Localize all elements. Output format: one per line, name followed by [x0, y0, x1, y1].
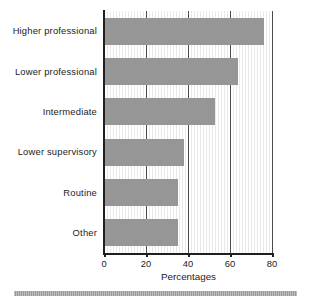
y-axis-line — [103, 10, 105, 255]
chart-plot-area: Higher professional Lower professional I… — [0, 0, 311, 268]
bar-row — [104, 11, 272, 51]
bar-row — [104, 92, 272, 132]
bar-other — [104, 219, 178, 246]
category-label-higher-professional: Higher professional — [0, 26, 97, 36]
bar-row — [104, 213, 272, 253]
footer-rule — [14, 291, 297, 296]
x-tick-0 — [104, 253, 106, 257]
bar-lower-professional — [104, 58, 238, 85]
category-label-other: Other — [0, 228, 97, 238]
x-axis-title: Percentages — [104, 271, 273, 282]
category-axis-labels: Higher professional Lower professional I… — [0, 11, 100, 253]
bar-lower-supervisory — [104, 139, 184, 166]
bar-row — [104, 51, 272, 91]
x-tick-80 — [272, 253, 274, 257]
category-label-lower-supervisory: Lower supervisory — [0, 147, 97, 157]
category-label-lower-professional: Lower professional — [0, 67, 97, 77]
bar-intermediate — [104, 98, 215, 125]
bar-routine — [104, 179, 178, 206]
x-tick-label-60: 60 — [225, 258, 235, 269]
bar-higher-professional — [104, 18, 264, 45]
category-label-routine: Routine — [0, 188, 97, 198]
plot-canvas — [104, 11, 272, 253]
x-tick-20 — [146, 253, 148, 257]
category-label-intermediate: Intermediate — [0, 107, 97, 117]
bar-row — [104, 132, 272, 172]
x-tick-label-40: 40 — [183, 258, 193, 269]
x-tick-label-0: 0 — [101, 258, 106, 269]
x-tick-60 — [230, 253, 232, 257]
x-tick-label-20: 20 — [141, 258, 151, 269]
bar-chart-figure: Higher professional Lower professional I… — [0, 0, 311, 299]
gridline-80 — [272, 11, 273, 253]
x-tick-label-80: 80 — [267, 258, 277, 269]
bar-row — [104, 172, 272, 212]
x-tick-40 — [188, 253, 190, 257]
